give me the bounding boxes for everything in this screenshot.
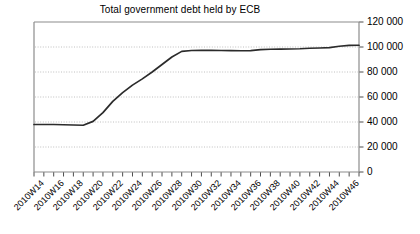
y-axis-ticks bbox=[359, 22, 364, 172]
data-series-line bbox=[34, 45, 359, 125]
x-axis-ticks bbox=[34, 172, 359, 177]
gridlines bbox=[35, 47, 358, 147]
chart-plot-area bbox=[0, 0, 420, 234]
chart-container: Total government debt held by ECB 020 00… bbox=[0, 0, 420, 234]
